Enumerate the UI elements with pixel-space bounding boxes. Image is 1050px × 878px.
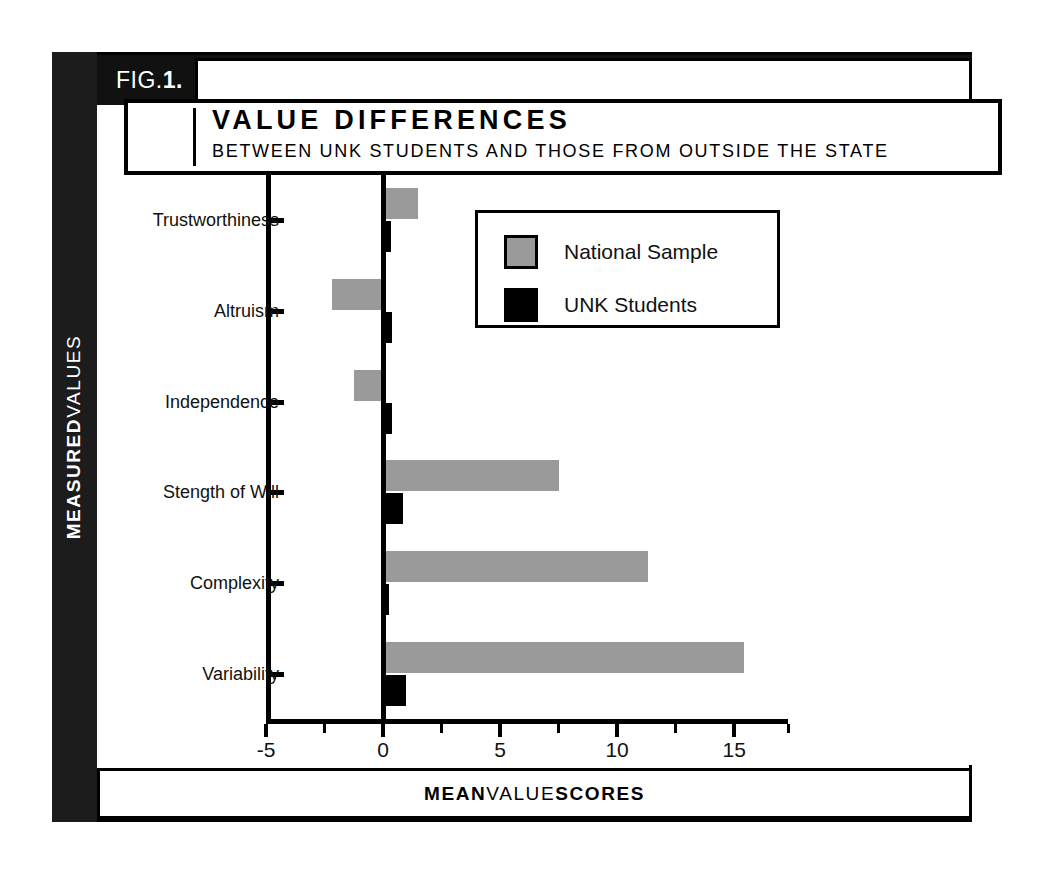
chart-legend: National SampleUNK Students — [475, 210, 780, 328]
x-axis-tick-major — [615, 724, 619, 737]
figure-root: MEASUREDVALUES FIG.1. VALUE DIFFERENCES … — [0, 0, 1050, 878]
x-axis-tick-minor — [440, 724, 443, 733]
x-axis-tick-label: 5 — [494, 738, 506, 762]
bar-unk-students — [383, 675, 406, 706]
x-axis-tick-major — [498, 724, 502, 737]
x-axis-tick-label: 0 — [377, 738, 389, 762]
bar-national-sample — [383, 642, 743, 673]
figure-number-value: 1 — [163, 67, 176, 94]
figure-number-prefix: FIG. — [116, 67, 163, 94]
chart-subtitle: BETWEEN UNK STUDENTS AND THOSE FROM OUTS… — [212, 141, 889, 162]
x-axis-tick-label: 10 — [605, 738, 628, 762]
caption-part-scores: SCORES — [555, 783, 645, 804]
bar-national-sample — [383, 460, 559, 491]
y-axis-category-label: Complexity — [190, 573, 279, 594]
legend-item: National Sample — [504, 235, 718, 269]
figure-number-bar-inset — [195, 58, 972, 102]
x-axis-caption: MEANVALUESCORES — [424, 783, 645, 805]
bar-national-sample — [354, 370, 383, 401]
y-axis-category-label: Variability — [202, 663, 279, 684]
zero-reference-line — [381, 175, 386, 719]
x-axis-line — [266, 719, 788, 724]
figure-number-suffix: . — [176, 67, 183, 94]
bar-national-sample — [332, 279, 383, 310]
y-axis-category-label: Altruism — [214, 301, 279, 322]
plot-area: TrustworthinessAltruismIndependenceSteng… — [97, 175, 972, 765]
x-axis-tick-minor — [674, 724, 677, 733]
y-axis-line — [266, 175, 271, 724]
caption-part-value: VALUE — [486, 783, 555, 804]
legend-label: National Sample — [564, 240, 718, 264]
caption-part-mean: MEAN — [424, 783, 486, 804]
x-axis-tick-minor — [557, 724, 560, 733]
y-axis-title-bar — [52, 52, 97, 822]
legend-swatch-national — [504, 235, 538, 269]
legend-label: UNK Students — [564, 293, 697, 317]
x-axis-caption-box: MEANVALUESCORES — [97, 768, 972, 819]
x-axis-tick-minor — [323, 724, 326, 733]
title-divider — [193, 108, 196, 166]
figure-number-label: FIG.1. — [116, 58, 183, 102]
x-axis-tick-label: -5 — [257, 738, 276, 762]
y-axis-category-label: Stength of Will — [163, 482, 279, 503]
chart-title: VALUE DIFFERENCES — [212, 105, 571, 136]
legend-swatch-unk — [504, 288, 538, 322]
bar-national-sample — [383, 188, 418, 219]
x-axis-tick-major — [732, 724, 736, 737]
bar-national-sample — [383, 551, 648, 582]
y-axis-category-label: Trustworthiness — [153, 210, 279, 231]
x-axis-tick-minor — [787, 724, 790, 733]
x-axis-tick-major — [264, 724, 268, 737]
x-axis-tick-label: 15 — [722, 738, 745, 762]
legend-item: UNK Students — [504, 288, 697, 322]
x-axis-tick-major — [381, 724, 385, 737]
plot-canvas: TrustworthinessAltruismIndependenceSteng… — [97, 175, 972, 765]
y-axis-category-label: Independence — [165, 391, 279, 412]
